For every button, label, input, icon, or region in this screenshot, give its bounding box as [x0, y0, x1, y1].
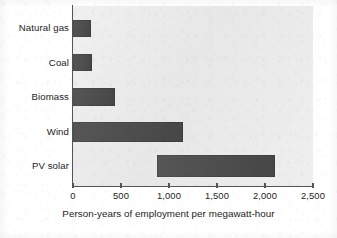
x-tick-mark-1000: [168, 183, 169, 188]
x-tick-label-1000: 1,000: [157, 190, 181, 201]
x-tick-mark-500: [120, 183, 121, 188]
category-label-coal: Coal: [49, 57, 69, 68]
bar-coal: [73, 54, 92, 71]
x-tick-mark-2500: [312, 183, 313, 188]
x-tick-mark-0: [72, 183, 73, 188]
bar-wind: [73, 122, 183, 142]
x-tick-mark-1500: [216, 183, 217, 188]
x-tick-label-1500: 1,500: [205, 190, 229, 201]
chart-figure: Natural gas Coal Biomass Wind PV solar 0…: [0, 0, 337, 238]
category-label-natural-gas: Natural gas: [19, 22, 69, 33]
x-tick-label-500: 500: [113, 190, 129, 201]
x-tick-label-2500: 2,500: [301, 190, 325, 201]
category-label-wind: Wind: [47, 126, 69, 137]
bars-layer: [0, 0, 337, 238]
category-label-pv-solar: PV solar: [32, 160, 69, 171]
bar-pv-solar: [157, 155, 275, 177]
x-tick-label-0: 0: [70, 190, 75, 201]
category-label-biomass: Biomass: [32, 91, 70, 102]
x-axis-title: Person-years of employment per megawatt-…: [0, 208, 337, 219]
bar-biomass: [73, 88, 115, 106]
bar-natural-gas: [73, 20, 91, 37]
x-tick-label-2000: 2,000: [253, 190, 277, 201]
x-tick-mark-2000: [264, 183, 265, 188]
